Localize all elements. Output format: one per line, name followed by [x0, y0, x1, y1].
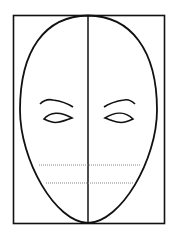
left-eye: [44, 113, 72, 122]
left-eyebrow: [40, 100, 73, 107]
face-proportion-diagram: [0, 0, 169, 237]
right-eyebrow: [104, 100, 135, 107]
right-eye: [105, 113, 133, 122]
